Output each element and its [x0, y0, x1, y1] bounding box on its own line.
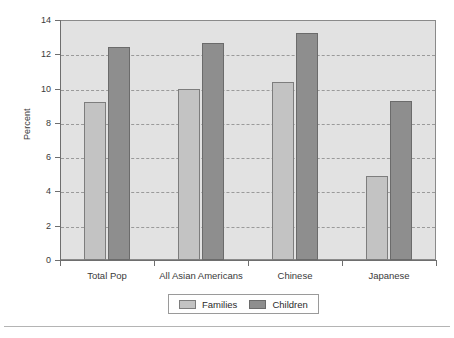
- x-tick-mark: [342, 260, 343, 266]
- y-tick-mark: [55, 123, 60, 124]
- legend-label: Children: [272, 299, 307, 310]
- chart-legend: FamiliesChildren: [168, 294, 319, 314]
- legend-entry-families: Families: [179, 299, 237, 310]
- bar-families-japanese: [366, 176, 388, 260]
- legend-label: Families: [202, 299, 237, 310]
- bar-chart-figure: 02468101214 Percent Total PopAll Asian A…: [0, 0, 454, 338]
- x-tick-mark: [154, 260, 155, 266]
- x-tick-mark: [248, 260, 249, 266]
- x-tick-label: Total Pop: [87, 270, 127, 281]
- legend-swatch-children-icon: [249, 300, 266, 309]
- y-tick-label: 14: [0, 15, 51, 25]
- y-tick-mark: [55, 54, 60, 55]
- x-tick-label: Japanese: [368, 270, 409, 281]
- y-tick-mark: [55, 89, 60, 90]
- bar-families-total-pop: [84, 102, 106, 260]
- y-tick-label: 2: [0, 221, 51, 231]
- y-axis-line: [60, 20, 61, 261]
- x-tick-label: All Asian Americans: [159, 270, 242, 281]
- bar-families-all-asian-americans: [178, 89, 200, 260]
- y-tick-mark: [55, 20, 60, 21]
- legend-entry-children: Children: [249, 299, 307, 310]
- y-tick-label: 6: [0, 152, 51, 162]
- bar-children-total-pop: [108, 47, 130, 260]
- footer-divider: [4, 326, 450, 327]
- x-tick-label: Chinese: [278, 270, 313, 281]
- x-tick-mark: [436, 260, 437, 266]
- y-tick-mark: [55, 191, 60, 192]
- x-tick-mark: [60, 260, 61, 266]
- legend-swatch-families-icon: [179, 300, 196, 309]
- bar-children-all-asian-americans: [202, 43, 224, 260]
- y-tick-label: 4: [0, 186, 51, 196]
- bar-children-japanese: [390, 101, 412, 260]
- y-axis-label: Percent: [22, 108, 32, 140]
- y-tick-label: 12: [0, 49, 51, 59]
- y-tick-mark: [55, 226, 60, 227]
- y-tick-label: 0: [0, 255, 51, 265]
- y-tick-mark: [55, 157, 60, 158]
- bar-families-chinese: [272, 82, 294, 260]
- y-tick-label: 10: [0, 84, 51, 94]
- bar-children-chinese: [296, 33, 318, 260]
